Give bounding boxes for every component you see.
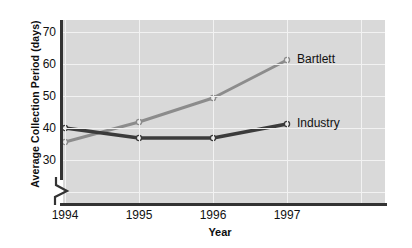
y-axis-line <box>60 20 63 180</box>
x-tick-label: 1995 <box>109 208 169 222</box>
gridline-vertical <box>361 20 362 204</box>
gridline-horizontal <box>63 96 385 97</box>
series-label-industry: Industry <box>297 116 340 130</box>
plot-area <box>63 20 385 204</box>
x-axis-title: Year <box>55 226 385 238</box>
x-tick-label: 1996 <box>183 208 243 222</box>
y-tick-label: 70 <box>30 25 56 39</box>
gridline-horizontal <box>63 64 385 65</box>
data-series-layer <box>63 20 385 204</box>
y-tick-label: 60 <box>30 57 56 71</box>
gridline-horizontal <box>63 192 385 193</box>
x-tick-label: 1997 <box>257 208 317 222</box>
gridline-vertical <box>287 20 288 204</box>
axis-break-icon <box>53 175 71 205</box>
y-tick-label: 30 <box>30 153 56 167</box>
gridline-vertical <box>139 20 140 204</box>
gridline-horizontal <box>63 32 385 33</box>
y-tick-label: 40 <box>30 121 56 135</box>
y-tick-label: 50 <box>30 89 56 103</box>
x-axis-line <box>60 203 387 206</box>
x-tick-label: 1994 <box>35 208 95 222</box>
line-series-industry <box>65 124 287 138</box>
gridline-vertical <box>213 20 214 204</box>
series-label-bartlett: Bartlett <box>297 52 335 66</box>
chart-figure: Average Collection Period (days) 70 60 5… <box>0 0 412 248</box>
gridline-horizontal <box>63 160 385 161</box>
